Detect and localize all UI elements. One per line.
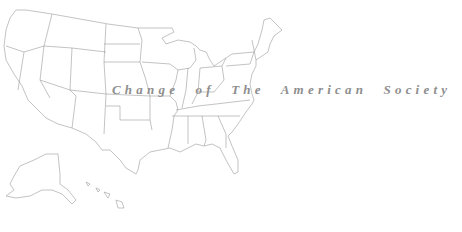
state-lines xyxy=(106,106,150,120)
state-lines xyxy=(150,96,178,148)
us-outline-map xyxy=(0,0,290,232)
state-lines xyxy=(70,48,76,128)
map-title: Change of The American Society xyxy=(112,82,451,98)
state-lines xyxy=(178,48,196,70)
state-lines xyxy=(104,28,142,62)
state-lines xyxy=(40,14,52,98)
state-lines xyxy=(218,116,226,148)
hawaii-outline xyxy=(86,182,124,208)
alaska-outline xyxy=(6,154,76,204)
state-lines xyxy=(202,116,206,146)
state-lines xyxy=(176,100,250,110)
state-lines xyxy=(6,46,106,52)
state-lines xyxy=(226,52,254,66)
state-lines xyxy=(104,24,106,134)
